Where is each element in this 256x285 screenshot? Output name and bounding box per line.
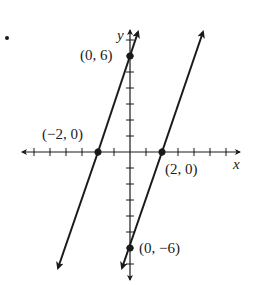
point-2-0: [159, 149, 166, 156]
point-0-neg6: [127, 245, 134, 252]
point-neg2-0: [95, 149, 102, 156]
coordinate-plane: [0, 0, 256, 285]
point-label-neg2-0: (−2, 0): [42, 127, 83, 142]
x-axis: [22, 148, 240, 156]
point-0-6: [127, 53, 134, 60]
x-axis-label: x: [233, 157, 240, 172]
point-label-2-0: (2, 0): [165, 162, 198, 177]
point-label-0-neg6: (0, −6): [139, 241, 180, 256]
point-label-0-6: (0, 6): [80, 48, 113, 63]
graph-figure: y x (0, 6) (−2, 0) (2, 0) (0, −6): [0, 0, 256, 285]
bullet-dot: [5, 36, 9, 40]
y-axis-label: y: [117, 28, 124, 43]
